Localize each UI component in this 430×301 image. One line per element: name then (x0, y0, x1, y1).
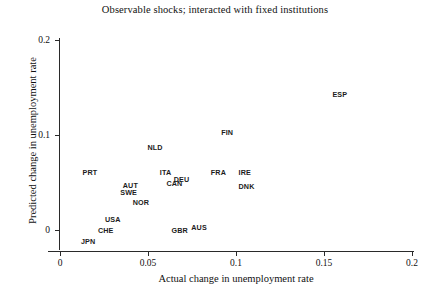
x-tick-label: 0.15 (316, 258, 333, 268)
data-point-label-nor: NOR (133, 200, 149, 207)
data-point-label-nld: NLD (147, 145, 162, 152)
y-tick-label: 0 (45, 225, 50, 235)
data-point-label-usa: USA (105, 216, 121, 223)
data-point-label-gbr: GBR (171, 227, 187, 234)
x-tick-mark (148, 252, 149, 256)
y-tick-label: 0.1 (38, 130, 50, 140)
x-axis-title: Actual change in unemployment rate (60, 273, 412, 284)
scatter-plot-figure: Observable shocks; interacted with fixed… (0, 0, 430, 301)
data-point-label-ire: IRE (239, 169, 251, 176)
x-tick-mark (412, 252, 413, 256)
x-tick-mark (324, 252, 325, 256)
data-point-label-esp: ESP (332, 91, 347, 98)
y-tick-label: 0.2 (38, 35, 50, 45)
data-point-label-prt: PRT (83, 169, 98, 176)
x-tick-mark (236, 252, 237, 256)
data-point-label-che: CHE (98, 227, 114, 234)
data-point-label-can: CAN (166, 181, 182, 188)
x-axis-line (48, 251, 414, 252)
y-tick-mark (55, 230, 59, 231)
x-tick-label: 0.05 (140, 258, 157, 268)
x-tick-mark (60, 252, 61, 256)
data-point-label-dnk: DNK (239, 184, 255, 191)
data-point-label-fra: FRA (211, 169, 226, 176)
x-tick-label: 0.1 (230, 258, 242, 268)
x-tick-label: 0 (58, 258, 63, 268)
x-tick-label: 0.2 (406, 258, 418, 268)
data-point-label-ita: ITA (160, 169, 171, 176)
y-axis-line (59, 38, 60, 250)
data-point-label-swe: SWE (120, 189, 137, 196)
page-title: Observable shocks; interacted with fixed… (0, 4, 430, 15)
data-point-label-aus: AUS (191, 224, 207, 231)
data-point-label-fin: FIN (221, 129, 233, 136)
y-axis-title: Predicted change in unemployment rate (27, 41, 38, 241)
data-point-label-jpn: JPN (81, 239, 95, 246)
y-tick-mark (55, 40, 59, 41)
y-tick-mark (55, 135, 59, 136)
